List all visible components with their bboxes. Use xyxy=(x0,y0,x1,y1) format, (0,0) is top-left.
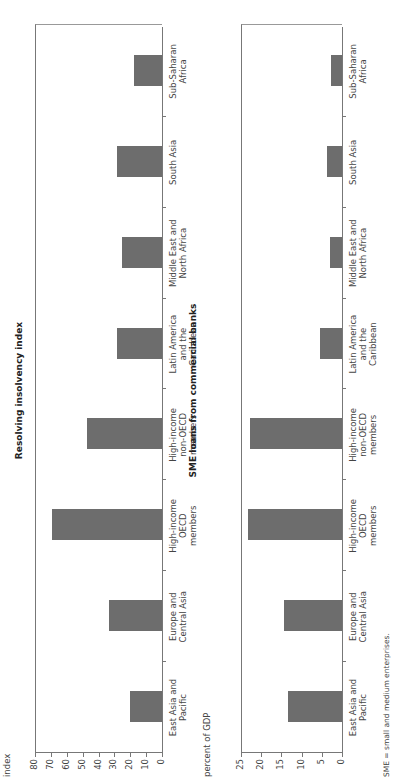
y-tick-label: 80 xyxy=(29,759,39,777)
y-tick-label: 0 xyxy=(156,759,166,777)
x-axis-line xyxy=(342,27,343,757)
y-tick-label: 40 xyxy=(93,759,103,777)
y-tick xyxy=(302,753,303,757)
y-tick xyxy=(35,753,36,757)
y-tick-label: 30 xyxy=(108,759,118,777)
y-tick xyxy=(114,753,115,757)
x-axis-line xyxy=(162,27,163,757)
figure: Resolving insolvency index index East As… xyxy=(0,0,398,781)
y-tick-label: 50 xyxy=(77,759,87,777)
x-axis-label: Sub-Saharan Africa xyxy=(348,26,368,117)
footnote: SME = small and medium enterprises. xyxy=(382,633,391,777)
y-tick-label: 10 xyxy=(140,759,150,777)
x-axis-label: High-income OECD members xyxy=(348,480,378,571)
bar xyxy=(109,600,163,631)
plot-area xyxy=(35,24,162,753)
y-tick xyxy=(342,753,343,757)
y-tick-label: 25 xyxy=(235,759,245,777)
y-tick-label: 60 xyxy=(61,759,71,777)
bar xyxy=(288,691,343,722)
plot-area xyxy=(241,24,342,753)
y-tick xyxy=(51,753,52,757)
bar xyxy=(130,691,163,722)
x-axis-label: East Asia and Pacific xyxy=(348,662,368,753)
bar xyxy=(330,237,343,268)
x-axis-label: Europe and Central Asia xyxy=(348,571,368,662)
bar xyxy=(284,600,343,631)
y-tick-label: 15 xyxy=(275,759,285,777)
y-tick-label: 10 xyxy=(296,759,306,777)
bar xyxy=(320,328,343,359)
x-axis-label: Europe and Central Asia xyxy=(168,571,188,662)
panel-title: SME loans from commercial banks xyxy=(188,0,198,781)
x-axis-label: South Asia xyxy=(348,117,358,208)
y-tick xyxy=(67,753,68,757)
x-axis-label: Sub-Saharan Africa xyxy=(168,26,188,117)
y-tick-label: 0 xyxy=(336,759,346,777)
y-tick xyxy=(241,753,242,757)
y-axis-unit: index xyxy=(2,754,12,777)
x-axis-label: Middle East and North Africa xyxy=(348,208,368,299)
y-tick-label: 20 xyxy=(124,759,134,777)
y-tick xyxy=(146,753,147,757)
x-axis-label: Middle East and North Africa xyxy=(168,208,188,299)
y-tick xyxy=(281,753,282,757)
panel-resolving-insolvency: Resolving insolvency index index East As… xyxy=(0,0,190,781)
x-axis-label: Latin America and the Caribbean xyxy=(348,299,378,390)
bar xyxy=(122,237,163,268)
y-axis-unit: percent of GDP xyxy=(202,713,212,777)
bar xyxy=(117,328,163,359)
y-tick xyxy=(162,753,163,757)
x-axis-label: South Asia xyxy=(168,117,178,208)
panel-title: Resolving insolvency index xyxy=(14,0,24,781)
bar xyxy=(52,509,163,540)
bar xyxy=(134,55,163,86)
y-tick xyxy=(130,753,131,757)
y-tick xyxy=(83,753,84,757)
bar xyxy=(117,146,163,177)
bar xyxy=(250,418,343,449)
y-tick-label: 70 xyxy=(45,759,55,777)
bar xyxy=(87,418,163,449)
y-tick-label: 5 xyxy=(316,759,326,777)
y-tick xyxy=(99,753,100,757)
bar xyxy=(327,146,343,177)
y-tick xyxy=(322,753,323,757)
x-axis-label: East Asia and Pacific xyxy=(168,662,188,753)
x-axis-label: High-income non-OECD members xyxy=(348,390,378,481)
y-tick-label: 20 xyxy=(255,759,265,777)
panel-sme-loans: SME loans from commercial banks percent … xyxy=(200,0,398,781)
bar xyxy=(248,509,343,540)
y-tick xyxy=(261,753,262,757)
